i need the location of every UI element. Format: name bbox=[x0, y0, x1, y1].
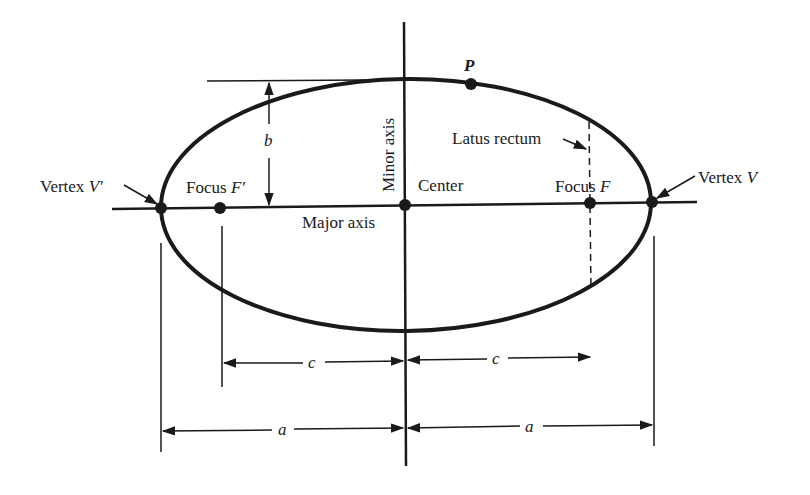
point-p bbox=[465, 78, 477, 90]
vertex-right-pointer bbox=[657, 176, 695, 198]
a-right-arrow-a bbox=[408, 426, 520, 428]
vertex-left-pointer bbox=[124, 185, 157, 204]
a-right-label: a bbox=[525, 417, 534, 436]
a-left-label: a bbox=[278, 420, 287, 439]
a-left-arrow-b bbox=[294, 428, 403, 429]
c-right-label: c bbox=[492, 349, 500, 368]
point-p-label: P bbox=[463, 56, 475, 75]
major-axis-label: Major axis bbox=[302, 213, 375, 232]
c-right-arrow-b bbox=[508, 357, 590, 358]
vertex-right-label: Vertex V bbox=[698, 168, 760, 187]
focus-right-label: Focus F bbox=[555, 177, 611, 196]
a-left-arrow-a bbox=[163, 430, 272, 431]
vertex-right-point bbox=[646, 196, 658, 208]
focus-left-label: Focus F′ bbox=[186, 178, 245, 197]
b-reference-line bbox=[207, 80, 365, 81]
ellipse-diagram: Vertex V′ Focus F′ Center Major axis Min… bbox=[0, 0, 810, 495]
c-left-arrow-b bbox=[325, 361, 403, 362]
latus-rectum-pointer bbox=[563, 139, 586, 149]
latus-rectum-label: Latus rectum bbox=[452, 129, 541, 148]
c-right-arrow-a bbox=[408, 359, 487, 360]
c-left-label: c bbox=[308, 353, 316, 372]
focus-left-point bbox=[214, 202, 226, 214]
center-point bbox=[399, 199, 411, 211]
focus-right-point bbox=[584, 197, 596, 209]
center-label: Center bbox=[418, 176, 464, 195]
b-label: b bbox=[264, 131, 273, 150]
a-right-arrow-b bbox=[543, 425, 652, 426]
minor-axis-line bbox=[404, 22, 406, 466]
minor-axis-label: Minor axis bbox=[379, 118, 398, 192]
vertex-left-point bbox=[155, 202, 167, 214]
vertex-left-label: Vertex V′ bbox=[40, 177, 103, 196]
